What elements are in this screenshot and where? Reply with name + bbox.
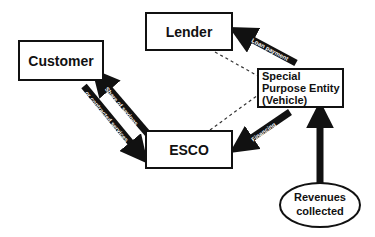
spe-label-line2: Purpose Entity — [262, 82, 340, 94]
spe-node: Special Purpose Entity (Vehicle) — [257, 68, 344, 108]
lender-node: Lender — [145, 12, 233, 51]
esco-label: ESCO — [169, 142, 209, 158]
lender-label: Lender — [166, 24, 213, 40]
spe-label-line3: (Vehicle) — [262, 94, 307, 106]
spe-label-line1: Special — [262, 70, 301, 82]
customer-label: Customer — [28, 53, 93, 69]
esco-node: ESCO — [145, 130, 233, 169]
customer-node: Customer — [18, 40, 104, 81]
dashed-link-esco-spe — [210, 95, 258, 130]
dashed-link-lender-spe — [215, 52, 258, 76]
revenues-label-line1: Revenues — [294, 191, 346, 203]
revenues-label-line2: collected — [296, 205, 344, 217]
label-loan-payment: Loan payment — [251, 37, 290, 61]
label-financing: Financing — [250, 121, 277, 142]
label-contracted-services: or contracted services — [84, 90, 130, 143]
